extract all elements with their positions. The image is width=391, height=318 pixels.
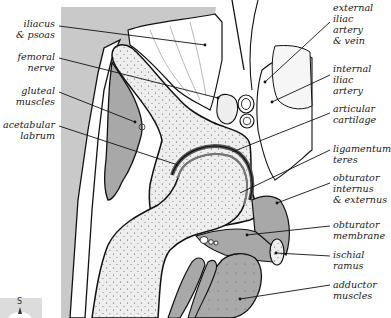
compass-arrow-up-icon [0,298,42,318]
label-articular-cartilage: articular cartilage [333,103,376,125]
orientation-marker: S [0,298,42,318]
label-ligamentum-teres: ligamentum teres [333,143,391,165]
label-internal-iliac-artery: internal iliac artery [333,63,371,96]
label-iliacus-psoas: iliacus & psoas [16,18,55,40]
adductor-muscles [168,254,261,318]
label-femoral-nerve: femoral nerve [18,51,55,73]
ischial-ramus [270,239,284,265]
label-adductor-muscles: adductor muscles [333,279,377,301]
label-acetabular-labrum: acetabular labrum [3,119,55,141]
external-iliac-vessels [238,95,254,128]
label-ischial-ramus: ischial ramus [333,249,364,271]
label-obturator-membrane: obturator membrane [333,219,385,241]
femoral-nerve-shape [217,94,238,124]
label-obturator-internus-externus: obturator internus & externus [333,172,387,205]
label-external-iliac-artery-vein: external iliac artery & vein [333,2,373,46]
label-gluteal-muscles: gluteal muscles [16,85,55,107]
